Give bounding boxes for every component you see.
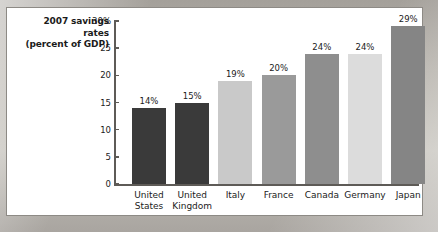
bar-value-label: 15% [169,91,215,101]
bar [218,81,252,184]
bar [132,108,166,184]
y-axis-tick-label: 5 [83,152,111,162]
x-axis-category-label-line: Kingdom [164,201,220,212]
bar [305,54,339,184]
x-axis-category-label-line: Japan [380,190,436,201]
y-axis-tick-label: 25 [83,43,111,53]
y-axis-tick-label: 30% [83,16,111,26]
bar-value-label: 24% [299,42,345,52]
bar [391,26,425,184]
y-axis-tick-label: 15 [83,98,111,108]
bar [175,103,209,185]
bar-value-label: 24% [342,42,388,52]
bar-value-label: 20% [256,63,302,73]
bar-value-label: 14% [126,96,172,106]
chart-panel: 2007 savings rates (percent of GDP) 0510… [6,7,423,216]
y-axis-tick-label: 10 [83,125,111,135]
bar-value-label: 19% [212,69,258,79]
y-axis-tick-label: 0 [83,179,111,189]
x-axis-line [114,184,419,186]
bar [348,54,382,184]
bar [262,75,296,184]
y-axis-tick-label: 20 [83,70,111,80]
bar-chart: 2007 savings rates (percent of GDP) 0510… [7,8,424,217]
x-axis-category-label: Japan [380,190,436,201]
bar-value-label: 29% [385,14,431,24]
chart-title-line-2: rates [11,28,109,40]
